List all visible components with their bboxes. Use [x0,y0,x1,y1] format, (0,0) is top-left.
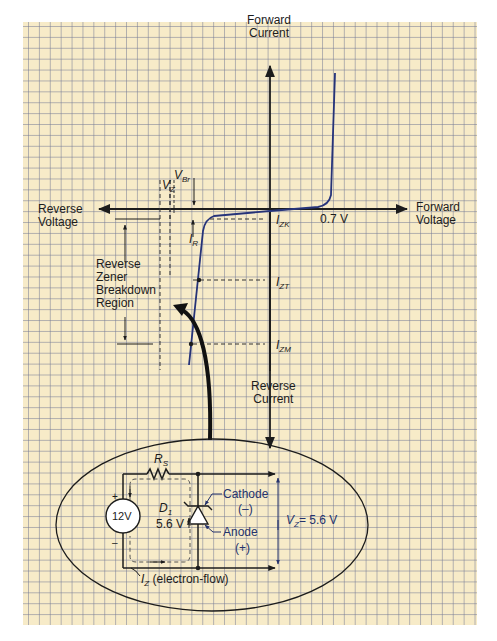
izm-label: IZM [276,339,291,353]
source-voltage-label: 12V [112,510,132,523]
source-plus-sign: + [112,490,118,503]
izt-label: IZT [276,276,289,290]
electron-flow-label: IZ (electron-flow) [141,573,229,587]
anode-label: Anode [223,526,258,539]
reverse-current-label: ReverseCurrent [251,380,296,406]
reverse-voltage-label: ReverseVoltage [38,203,83,229]
vbr-label: VBr [174,169,190,183]
resistor-rs [147,469,169,479]
cathode-sign: (–) [238,503,253,516]
izm-point [189,342,193,346]
source-minus-sign: – [112,536,118,549]
cathode-label: Cathode [223,488,268,501]
breakdown-region-label: ReverseZenerBreakdownRegion [96,258,156,310]
vz-value-label: VZ= 5.6 V [286,514,337,528]
izt-point [197,278,201,282]
diode-voltage-label: 5.6 V [156,518,184,531]
izk-label: IZK [276,214,290,228]
circuit-to-curve-arrow [182,310,210,440]
diode-label: D1 [159,502,172,516]
forward-voltage-label: ForwardVoltage [416,201,460,227]
vz-label: VZ [162,179,175,193]
zener-diode-symbol [188,506,208,524]
knee-voltage-label: 0.7 V [320,213,348,226]
anode-sign: (+) [235,542,250,555]
ir-label: IR [189,233,198,247]
forward-current-label: ForwardCurrent [247,14,291,40]
resistor-label: RS [154,453,168,467]
